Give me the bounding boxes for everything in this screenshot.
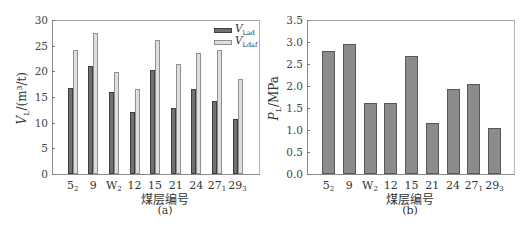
bar-p-l-24 [447, 89, 460, 174]
y-tick-mark [307, 152, 310, 153]
y-tick-label: 3.5 [277, 15, 303, 25]
x-tick-label: 271 [463, 180, 485, 195]
x-tick-label: 52 [318, 180, 340, 195]
bar-p-l-21 [426, 123, 439, 174]
caption-b: (b) [385, 204, 435, 217]
bar-p-l-27-1 [467, 84, 480, 174]
y-tick-mark [307, 20, 310, 21]
bar-p-l-29-3 [488, 128, 501, 174]
bar-p-l-15 [405, 56, 418, 174]
bar-p-l-w-2 [364, 103, 377, 174]
bar-p-l-12 [384, 103, 397, 174]
y-tick-label: 0.5 [277, 147, 303, 157]
y-tick-mark [307, 42, 310, 43]
y-tick-mark [307, 64, 310, 65]
bar-p-l-5-2 [322, 51, 335, 174]
y-tick-mark [307, 86, 310, 87]
chart-panel-b: 0.00.51.01.52.02.53.03.5 529W21215212427… [0, 0, 530, 232]
x-tick-label: 9 [338, 180, 360, 192]
y-tick-mark [307, 130, 310, 131]
x-tick-label: 293 [484, 180, 506, 195]
y-tick-label: 0.0 [277, 169, 303, 179]
y-axis-label-b: PL/MPa [267, 58, 283, 138]
y-tick-label: 3.0 [277, 37, 303, 47]
y-tick-mark [307, 174, 310, 175]
bar-p-l-9 [343, 44, 356, 174]
y-tick-mark [307, 108, 310, 109]
